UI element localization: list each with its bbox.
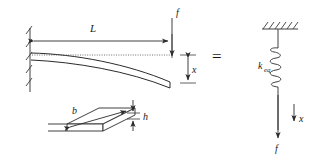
deflected-beam [31,53,170,88]
spring-stiffness-label: k eq [258,60,271,74]
deflection-label: x [191,64,197,75]
cantilever-beam-group: L f x [26,7,197,92]
cantilever-spring-equivalence-figure: L f x [0,0,324,160]
stiffness-subscript: eq [264,66,271,74]
applied-force-label: f [176,7,180,18]
ceiling-support [262,22,298,29]
width-label: b [72,105,77,116]
equals-sign: = [212,47,222,66]
length-label: L [89,22,96,34]
spring-displacement-label: x [298,113,304,124]
bar-front-face [67,124,103,131]
height-label: h [143,111,148,122]
spring-force-label: f [275,143,279,154]
spring-model-group: k eq x f [258,22,304,154]
stiffness-symbol: k [258,60,263,71]
fixed-wall-support [26,26,32,92]
cross-section-inset: b h [48,100,148,131]
coil-spring [270,48,281,87]
